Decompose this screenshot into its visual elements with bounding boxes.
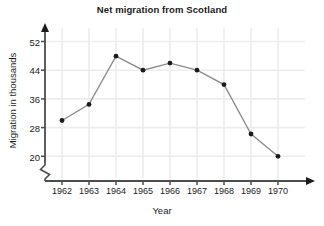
chart-canvas: [0, 0, 324, 226]
x-axis: [45, 177, 315, 185]
y-axis: [41, 23, 50, 181]
data-point: [168, 61, 173, 66]
data-point: [87, 102, 92, 107]
data-point: [60, 118, 65, 123]
data-point: [249, 132, 254, 137]
data-point: [195, 68, 200, 73]
data-point: [114, 54, 119, 59]
grid-lines: [45, 28, 305, 178]
data-point: [141, 68, 146, 73]
data-point: [222, 82, 227, 87]
data-point: [276, 154, 281, 159]
chart-container: Net migration from Scotland Migration in…: [0, 0, 324, 226]
